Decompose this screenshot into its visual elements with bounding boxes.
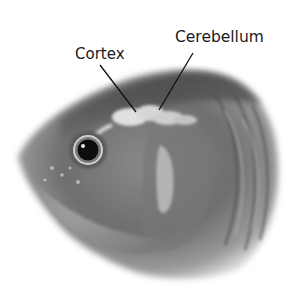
cortex-label: Cortex	[75, 47, 125, 62]
fish-brain-diagram: Cortex Cerebellum	[0, 0, 299, 290]
cerebellum-label: Cerebellum	[175, 30, 264, 46]
eye	[69, 131, 107, 169]
